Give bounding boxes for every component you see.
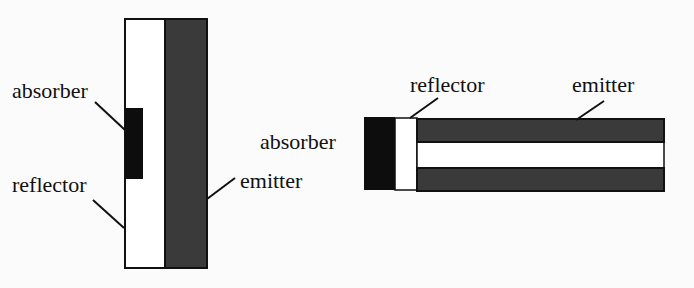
right-absorber	[364, 117, 395, 190]
right-emitter-bottom	[417, 168, 664, 191]
left-emitter-leader	[207, 178, 235, 199]
right-channel	[417, 142, 664, 168]
right-emitter-leader	[576, 101, 604, 120]
left-absorber-leader	[95, 102, 125, 130]
left-absorber-label: absorber	[12, 78, 88, 103]
right-emitter-label: emitter	[572, 72, 635, 97]
left-emitter	[165, 19, 207, 268]
right-reflector-leader	[410, 98, 438, 118]
right-reflector-label: reflector	[410, 72, 485, 97]
left-absorber	[125, 108, 143, 179]
diagram-canvas: absorber reflector emitter absorber refl…	[0, 0, 694, 288]
right-emitter-top	[417, 119, 664, 142]
left-reflector-leader	[93, 200, 124, 228]
left-reflector-label: reflector	[12, 172, 87, 197]
right-absorber-label: absorber	[260, 129, 336, 154]
right-reflector	[395, 118, 417, 190]
left-emitter-label: emitter	[240, 168, 303, 193]
right-diagram: absorber reflector emitter	[260, 72, 664, 191]
